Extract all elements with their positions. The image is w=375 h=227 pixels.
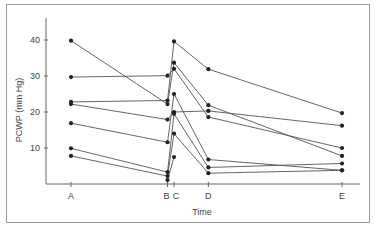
x-tick-label: D: [205, 191, 212, 201]
data-point: [206, 157, 210, 161]
data-point: [340, 146, 344, 150]
data-point: [206, 115, 210, 119]
data-point: [69, 75, 73, 79]
data-point: [165, 98, 169, 102]
series-line-patient-7: [71, 134, 342, 176]
data-point: [165, 178, 169, 182]
pcwp-line-chart: 10203040ABCDE PCWP (mm Hg) Time: [0, 0, 375, 227]
data-point: [172, 67, 176, 71]
x-axis-title: Time: [192, 207, 212, 217]
data-point: [172, 61, 176, 65]
y-tick-label: 20: [30, 107, 40, 117]
series-line-patient-6: [71, 114, 342, 172]
data-point: [69, 146, 73, 150]
data-point: [340, 111, 344, 115]
data-point: [206, 103, 210, 107]
x-tick-label: B: [164, 191, 170, 201]
y-tick-label: 10: [30, 143, 40, 153]
data-point: [69, 102, 73, 106]
data-point: [69, 121, 73, 125]
data-point: [340, 168, 344, 172]
data-point: [340, 124, 344, 128]
data-point: [165, 102, 169, 106]
series-line-patient-2: [71, 69, 342, 148]
x-tick-label: A: [68, 191, 74, 201]
data-point: [165, 117, 169, 121]
y-tick-label: 30: [30, 71, 40, 81]
data-point: [69, 39, 73, 43]
y-axis-title: PCWP (mm Hg): [14, 78, 24, 142]
y-tick-label: 40: [30, 35, 40, 45]
data-point: [340, 154, 344, 158]
data-point: [165, 74, 169, 78]
x-tick-label: C: [173, 191, 180, 201]
data-point: [165, 174, 169, 178]
data-point: [165, 140, 169, 144]
data-point: [340, 161, 344, 165]
data-point: [172, 39, 176, 43]
data-point: [206, 171, 210, 175]
data-point: [69, 154, 73, 158]
data-point: [206, 165, 210, 169]
x-tick-label: E: [339, 191, 345, 201]
data-point: [206, 109, 210, 113]
data-point: [165, 170, 169, 174]
data-point: [172, 112, 176, 116]
data-point: [172, 92, 176, 96]
data-point: [172, 155, 176, 159]
data-point: [172, 132, 176, 136]
data-point: [206, 67, 210, 71]
